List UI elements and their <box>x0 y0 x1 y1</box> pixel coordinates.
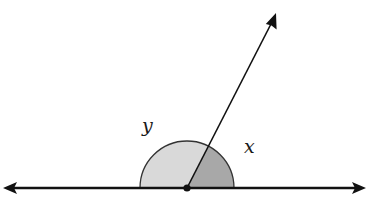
ray-arrowhead-icon <box>266 13 277 30</box>
angle-diagram: y x <box>0 0 368 210</box>
ray <box>187 21 273 188</box>
angle-x-label: x <box>244 135 255 157</box>
vertex-point <box>183 184 190 191</box>
angle-y-label: y <box>141 114 153 136</box>
